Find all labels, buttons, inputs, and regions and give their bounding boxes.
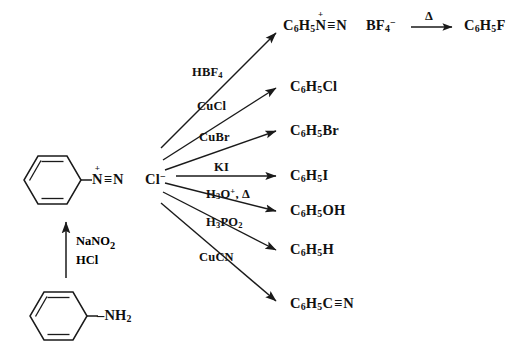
product-bromobenzene: C6H5Br	[290, 123, 339, 139]
reagent-label-cubr: CuBr	[199, 131, 230, 144]
benzene-ring-aniline	[30, 292, 98, 340]
product-phenol: C6H5OH	[290, 203, 345, 219]
plus-charge-icon: +	[95, 164, 100, 173]
chloride-counterion: Cl−	[145, 172, 166, 187]
amine-subscript: 2	[127, 313, 132, 324]
amine-label: –NH	[97, 307, 127, 323]
reagent-label-h3po2: H3PO2	[206, 216, 243, 229]
diagram-vector-layer	[0, 0, 522, 348]
nitrogen-cation: +N	[92, 172, 103, 187]
product-diazonium-tetrafluoroborate: C6H5+N≡N	[283, 18, 347, 34]
product-benzonitrile: C6H5C≡N	[290, 296, 354, 312]
tetrafluoroborate-anion: BF4−	[366, 18, 396, 34]
reagent-hcl: HCl	[76, 252, 115, 268]
product-fluorobenzene: C6H5F	[464, 18, 505, 34]
reagent-label-cucl: CuCl	[197, 100, 226, 113]
reagent-label-cucn: CuCN	[199, 251, 234, 264]
minus-charge-icon: −	[160, 171, 166, 182]
nitrogen-atom-1: N	[92, 171, 103, 187]
reagent-label-h3o-delta: H3O+, Δ	[206, 187, 250, 201]
product-benzene: C6H5H	[290, 242, 334, 258]
product-chlorobenzene: C6H5Cl	[290, 79, 337, 95]
diazotization-reagents: NaNO2 HCl	[76, 233, 115, 268]
reagent-label-hbf4: HBF4	[192, 66, 223, 79]
reagent-nano2: NaNO2	[76, 233, 115, 252]
reaction-scheme-diagram: +N≡N Cl− –NH2 NaNO2 HCl HBF4 CuCl CuBr K…	[0, 0, 522, 348]
reagent-label-ki: KI	[214, 161, 229, 174]
nitrogen-cation: +N	[315, 18, 326, 33]
thermal-condition-delta: Δ	[425, 10, 433, 23]
benzene-ring-diazonium	[24, 156, 92, 204]
chloride-label: Cl	[145, 171, 160, 187]
triple-bond-icon: ≡	[333, 295, 343, 311]
nitrogen-atom-2: N	[113, 171, 124, 187]
aniline-amine-group: –NH2	[97, 308, 132, 324]
diazonium-group: +N≡N	[92, 172, 124, 187]
triple-bond-icon: ≡	[103, 171, 113, 187]
plus-charge-icon: +	[318, 10, 323, 19]
product-iodobenzene: C6H5I	[290, 168, 328, 184]
triple-bond-icon: ≡	[326, 17, 336, 33]
